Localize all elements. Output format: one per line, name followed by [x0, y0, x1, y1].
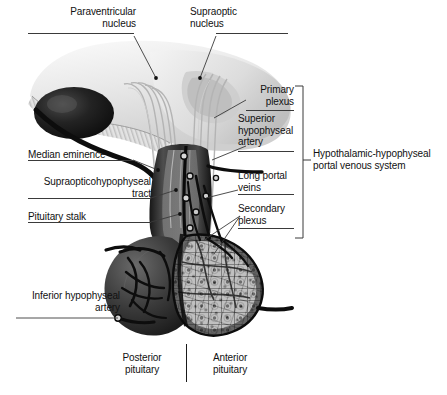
rule-paraventricular-nucleus [28, 33, 134, 34]
label-supraoptic-nucleus: Supraoptic nucleus [190, 6, 300, 29]
pituitary-divider [186, 344, 187, 382]
label-superior-hypophyseal-artery: Superior hypophyseal artery [238, 113, 298, 148]
rule-long-portal-veins [238, 194, 294, 195]
rule-pituitary-stalk [28, 222, 151, 223]
anatomy-figure: Paraventricular nucleus Supraoptic nucle… [0, 0, 447, 395]
label-median-eminence: Median eminence [28, 149, 168, 161]
label-pituitary-stalk: Pituitary stalk [28, 211, 168, 223]
optic-chiasm [34, 87, 114, 139]
label-portal-venous-system: Hypothalamic-hypophyseal portal venous s… [313, 148, 445, 171]
label-paraventricular-nucleus: Paraventricular nucleus [8, 6, 136, 29]
label-long-portal-veins: Long portal veins [238, 170, 298, 193]
rule-primary-plexus [246, 110, 294, 111]
rule-superior-hypophyseal-artery [238, 151, 294, 152]
rule-median-eminence [28, 160, 133, 161]
label-secondary-plexus: Secondary plexus [238, 203, 300, 226]
rule-supraoptic-nucleus [216, 33, 288, 34]
label-anterior-pituitary: Anterior pituitary [196, 352, 264, 375]
rule-secondary-plexus [238, 228, 294, 229]
label-supraopticohypophyseal-tract: Supraopticohypophyseal tract [24, 176, 151, 199]
rule-supraopticohypophyseal-tract [28, 198, 151, 199]
label-primary-plexus: Primary plexus [238, 84, 294, 107]
label-posterior-pituitary: Posterior pituitary [108, 352, 176, 375]
label-inferior-hypophyseal-artery: Inferior hypophyseal artery [8, 290, 120, 313]
